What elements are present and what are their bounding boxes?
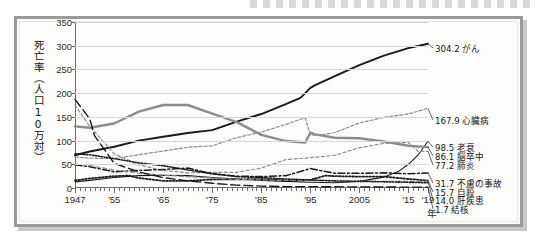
series-end-label: 77.2 肺炎 [435,159,475,171]
series-end-label: 304.2 がん [435,42,480,54]
series-end-labels: 304.2 がん167.9 心臓病98.5 老衰86.1 脳卒中77.2 肺炎3… [0,0,545,246]
series-end-label: 167.9 心臓病 [435,114,489,126]
series-end-label: 1.7 結核 [435,203,469,215]
